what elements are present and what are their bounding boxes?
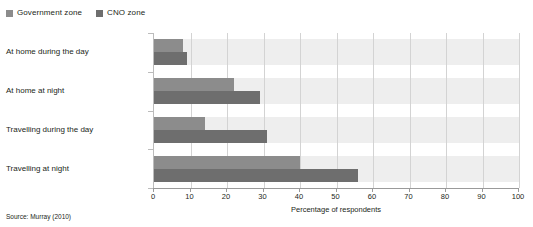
bar <box>154 130 267 143</box>
source-note: Source: Murray (2010) <box>6 212 71 221</box>
y-axis-category-labels: At home during the dayAt home at nightTr… <box>0 33 148 188</box>
bar <box>154 156 300 169</box>
bar <box>154 169 358 182</box>
x-axis-tick-label: 80 <box>441 192 449 202</box>
x-axis-tick-label: 50 <box>331 192 339 202</box>
legend-label: CNO zone <box>107 8 145 18</box>
legend-entry-cno-zone: CNO zone <box>96 8 145 18</box>
y-axis-category-label: Travelling at night <box>6 164 69 174</box>
legend-entry-government-zone: Government zone <box>6 8 82 18</box>
x-axis-tick-label: 60 <box>368 192 376 202</box>
bars-layer <box>154 33 519 188</box>
bar <box>154 39 183 52</box>
y-axis-category-label: Travelling during the day <box>6 125 93 135</box>
bar <box>154 91 260 104</box>
y-axis-category-label: At home at night <box>6 86 64 96</box>
y-axis-category-label: At home during the day <box>6 47 89 57</box>
bar <box>154 52 187 65</box>
x-axis-tick-labels: 0102030405060708090100 <box>153 192 519 204</box>
plot-area <box>153 33 519 188</box>
x-axis-tick-label: 0 <box>151 192 155 202</box>
x-axis-tick-label: 10 <box>185 192 193 202</box>
bar <box>154 78 234 91</box>
x-axis-tick-label: 100 <box>512 192 525 202</box>
x-axis-tick-label: 90 <box>477 192 485 202</box>
x-axis-tick-label: 70 <box>404 192 412 202</box>
x-axis-tick-label: 30 <box>258 192 266 202</box>
legend-label: Government zone <box>17 8 82 18</box>
bar-chart-figure: Government zone CNO zone At home during … <box>0 0 533 227</box>
x-axis-title: Percentage of respondents <box>153 205 519 215</box>
x-axis-tick-label: 40 <box>295 192 303 202</box>
legend-swatch-icon <box>6 10 13 17</box>
gridline <box>519 33 520 188</box>
x-axis-tick-label: 20 <box>222 192 230 202</box>
bar <box>154 117 205 130</box>
legend-swatch-icon <box>96 10 103 17</box>
chart-legend: Government zone CNO zone <box>6 6 145 20</box>
